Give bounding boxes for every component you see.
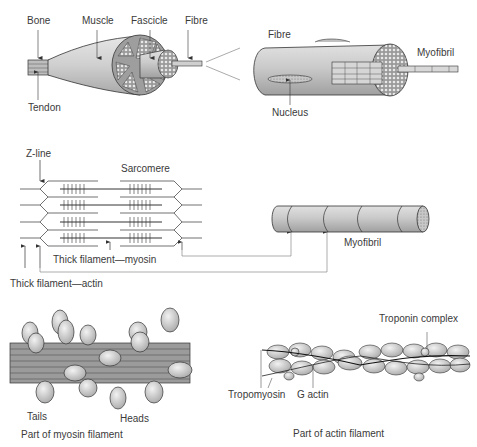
actin-filament-illustration xyxy=(261,332,470,388)
label-fibre: Fibre xyxy=(268,30,291,40)
myofibril-illustration xyxy=(272,206,429,232)
label-thick-filament-actin: Thick filament—actin xyxy=(10,279,103,289)
label-tendon: Tendon xyxy=(28,103,61,113)
label-fibre-muscle: Fibre xyxy=(185,16,208,26)
label-sarcomere: Sarcomere xyxy=(121,164,170,174)
label-g-actin: G actin xyxy=(297,390,329,400)
caption-actin: Part of actin filament xyxy=(293,429,384,439)
myosin-filament-illustration xyxy=(10,308,192,409)
label-heads: Heads xyxy=(120,414,149,424)
label-troponin-complex: Troponin complex xyxy=(379,314,458,324)
muscle-illustration xyxy=(28,30,240,100)
label-bone: Bone xyxy=(27,16,50,26)
label-fascicle: Fascicle xyxy=(131,16,168,26)
label-nucleus: Nucleus xyxy=(272,108,308,118)
label-thick-filament-myosin: Thick filament—myosin xyxy=(53,255,156,265)
label-muscle: Muscle xyxy=(82,16,114,26)
label-tails: Tails xyxy=(27,412,47,422)
label-tropomyosin: Tropomyosin xyxy=(228,390,285,400)
caption-myosin: Part of myosin filament xyxy=(21,430,123,440)
label-z-line: Z-line xyxy=(26,149,51,159)
sarcomere-rows xyxy=(20,181,202,246)
label-myofibril-top: Myofibril xyxy=(417,48,454,58)
label-myofibril: Myofibril xyxy=(344,238,381,248)
muscle-structure-diagram xyxy=(0,0,477,447)
